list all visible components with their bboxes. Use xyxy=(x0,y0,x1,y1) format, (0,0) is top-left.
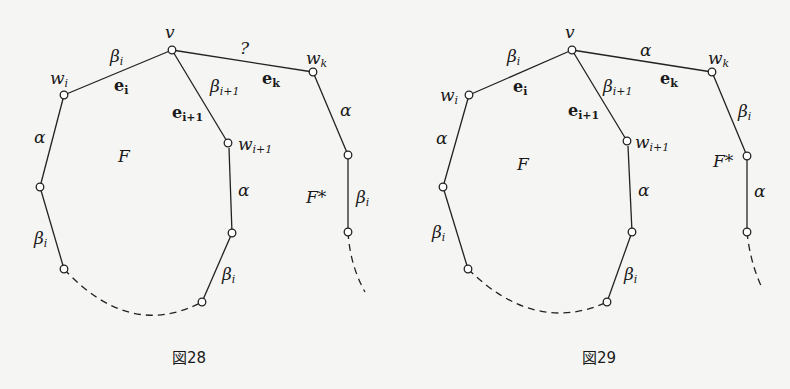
node-left xyxy=(36,183,44,191)
label-edge-vwk-name: ek xyxy=(660,69,678,90)
label-edge-vwi1-color: βi+1 xyxy=(209,76,240,98)
label-face-fstar: F* xyxy=(712,151,734,171)
dashed-arc-bottom xyxy=(64,269,202,315)
label-edge-vwi1-color: βi+1 xyxy=(602,76,633,98)
diagram-svg: v wi wk wi+1 F F* βi ei βi+1 ei+1 ? ek α… xyxy=(0,0,790,389)
node-right-upper xyxy=(344,151,352,159)
label-edge-right-upper: α xyxy=(340,100,352,120)
edge-left-lower xyxy=(443,187,468,269)
label-edge-mid-lower: βi xyxy=(221,264,235,286)
label-edge-left-lower: βi xyxy=(431,222,445,244)
node-right-lower xyxy=(344,228,352,236)
label-v: v xyxy=(565,22,575,42)
dashed-arc-right xyxy=(747,232,762,288)
label-edge-vwi1-name: ei+1 xyxy=(568,101,599,122)
label-wi: wi xyxy=(440,85,458,107)
node-right-upper xyxy=(743,152,751,160)
figure-canvas: v wi wk wi+1 F F* βi ei βi+1 ei+1 ? ek α… xyxy=(0,0,790,389)
label-edge-left-upper: α xyxy=(436,128,448,148)
figure-29: v wi wk wi+1 F F* βi ei βi+1 ei+1 α ek α… xyxy=(431,22,766,367)
label-edge-left-upper: α xyxy=(34,127,46,147)
label-face-fstar: F* xyxy=(305,187,327,207)
node-wk xyxy=(708,68,716,76)
node-bottom-right xyxy=(603,298,611,306)
node-v xyxy=(168,46,176,54)
node-bottom-right xyxy=(198,298,206,306)
node-right-lower xyxy=(743,228,751,236)
node-bottom-left xyxy=(60,265,68,273)
label-edge-vwi1-name: ei+1 xyxy=(172,103,203,124)
node-wk xyxy=(309,68,317,76)
label-edge-left-lower: βi xyxy=(33,228,47,250)
label-edge-vwi-color: βi xyxy=(506,46,520,68)
label-edge-vwk-color: α xyxy=(640,40,652,60)
label-wk: wk xyxy=(708,48,730,70)
dashed-arc-bottom xyxy=(468,269,607,313)
node-wi1 xyxy=(224,139,232,147)
figure-28: v wi wk wi+1 F F* βi ei βi+1 ei+1 ? ek α… xyxy=(33,22,369,367)
node-v xyxy=(568,46,576,54)
label-edge-mid-lower: βi xyxy=(623,264,637,286)
edge-mid-upper xyxy=(229,148,232,233)
node-bottom-left xyxy=(464,265,472,273)
label-edge-vwi-name: ei xyxy=(114,76,128,97)
caption-fig29: 図29 xyxy=(582,349,616,367)
label-edge-vwi-color: βi xyxy=(109,46,123,68)
node-mid xyxy=(628,228,636,236)
node-left xyxy=(439,183,447,191)
node-wi xyxy=(60,91,68,99)
label-face-f: F xyxy=(516,154,530,174)
label-v: v xyxy=(165,22,175,42)
label-edge-right-upper: βi xyxy=(737,101,751,123)
node-wi1 xyxy=(623,137,631,145)
label-edge-vwk-name: ek xyxy=(262,69,280,90)
label-wi1: wi+1 xyxy=(238,134,272,156)
label-face-f: F xyxy=(117,146,131,166)
label-edge-right-lower: βi xyxy=(355,187,369,209)
label-edge-mid-upper: α xyxy=(638,180,650,200)
label-wi: wi xyxy=(50,68,68,90)
label-edge-vwk-color: ? xyxy=(240,38,250,58)
node-wi xyxy=(465,91,473,99)
label-edge-mid-upper: α xyxy=(238,180,250,200)
caption-fig28: 図28 xyxy=(172,349,206,367)
dashed-arc-right xyxy=(348,232,365,292)
label-wi1: wi+1 xyxy=(635,132,669,154)
label-edge-right-lower: α xyxy=(754,181,766,201)
label-edge-vwi-name: ei xyxy=(513,77,527,98)
edge-mid-upper xyxy=(628,146,632,232)
label-wk: wk xyxy=(306,48,328,70)
node-mid xyxy=(228,229,236,237)
